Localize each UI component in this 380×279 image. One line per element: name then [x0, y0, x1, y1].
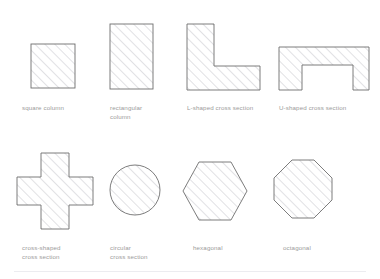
shape-hexagonal-cross-section: [183, 162, 247, 220]
shape-cross-cross-section: [17, 153, 93, 229]
caption-u-shaped-cross-section: U-shaped cross section: [279, 103, 374, 112]
bottom-divider: [14, 271, 366, 272]
shape-l-cross-section: [187, 24, 260, 90]
caption-square-column: square column: [22, 103, 102, 112]
caption-circular-cross-section: circular cross section: [110, 243, 182, 261]
caption-l-shaped-cross-section: L-shaped cross section: [187, 103, 277, 112]
caption-octagonal-cross-section: octagonal: [283, 243, 363, 252]
shape-square-column: [31, 44, 75, 88]
shapes-canvas: [0, 0, 380, 279]
caption-cross-shaped-cross-section: cross-shaped cross section: [22, 243, 102, 261]
shape-circular-cross-section: [110, 165, 160, 215]
cross-section-figure: square column rectangular column L-shape…: [0, 0, 380, 279]
shape-octagonal-cross-section: [274, 160, 332, 218]
caption-hexagonal-cross-section: hexagonal: [193, 243, 273, 252]
caption-rectangular-column: rectangular column: [110, 103, 182, 121]
shape-rectangular-column: [110, 24, 153, 89]
shape-u-cross-section: [279, 47, 369, 90]
